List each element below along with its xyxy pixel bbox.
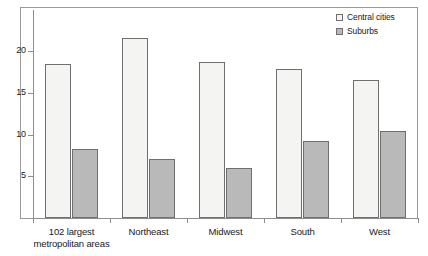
x-axis-tick xyxy=(341,218,342,223)
bar-chart: 5101520 102 largestmetropolitan areasNor… xyxy=(0,0,428,256)
legend-swatch-central-cities-icon xyxy=(336,14,343,21)
x-axis-category-label-line1: 102 largest xyxy=(49,226,94,237)
x-axis-tick xyxy=(187,218,188,223)
x-axis-line xyxy=(33,218,418,219)
x-axis-tick xyxy=(418,218,419,223)
x-axis-category-label: South xyxy=(264,226,341,238)
x-axis-tick xyxy=(33,218,34,223)
bar xyxy=(226,168,252,218)
legend-item-suburbs: Suburbs xyxy=(336,25,395,37)
x-axis-category-label: Northeast xyxy=(110,226,187,238)
legend-label-suburbs: Suburbs xyxy=(347,27,378,36)
x-axis-tick xyxy=(110,218,111,223)
bar xyxy=(72,149,98,218)
bar xyxy=(149,159,175,218)
x-axis-category-label-line1: West xyxy=(369,226,390,237)
x-axis-category-label: Midwest xyxy=(187,226,264,238)
x-axis-category-label-line2: metropolitan areas xyxy=(33,238,110,250)
legend-label-central-cities: Central cities xyxy=(347,13,395,22)
bar xyxy=(353,80,379,218)
x-axis-category-label: West xyxy=(341,226,418,238)
legend-swatch-suburbs-icon xyxy=(336,28,343,35)
x-axis-category-label: 102 largestmetropolitan areas xyxy=(33,226,110,250)
bar xyxy=(45,64,71,218)
bar xyxy=(303,141,329,218)
x-axis-tick xyxy=(264,218,265,223)
x-axis-category-label-line1: Midwest xyxy=(209,226,243,237)
bar xyxy=(276,69,302,218)
bar xyxy=(380,131,406,218)
x-axis-category-label-line1: Northeast xyxy=(129,226,169,237)
legend-item-central-cities: Central cities xyxy=(336,11,395,23)
x-axis-category-label-line1: South xyxy=(290,226,314,237)
bar xyxy=(199,62,225,218)
bar xyxy=(122,38,148,218)
chart-legend: Central cities Suburbs xyxy=(336,11,395,39)
